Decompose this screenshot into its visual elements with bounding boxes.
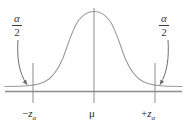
- left-tail-arrow: [18, 40, 27, 85]
- left-alpha-denominator: 2: [12, 27, 22, 38]
- right-tail-arrow: [160, 40, 168, 85]
- right-alpha-numerator: α: [159, 13, 169, 24]
- right-tail-alpha-over-two-label: α 2: [159, 13, 169, 39]
- right-critical-value-label: +zα: [141, 108, 155, 122]
- left-critical-subscript: α: [33, 114, 37, 122]
- left-critical-value-label: −zα: [22, 108, 36, 122]
- right-critical-subscript: α: [152, 114, 156, 122]
- right-alpha-denominator: 2: [159, 27, 169, 38]
- left-tail-alpha-over-two-label: α 2: [12, 13, 22, 39]
- normal-distribution-figure: α 2 α 2 −zα μ +zα: [0, 0, 187, 129]
- mean-label: μ: [89, 108, 95, 119]
- left-alpha-numerator: α: [12, 13, 22, 24]
